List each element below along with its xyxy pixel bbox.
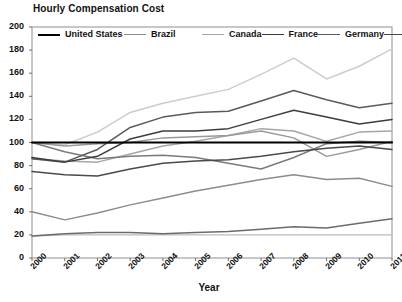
legend-line-swatch <box>38 34 60 36</box>
legend-label: Canada <box>229 30 262 39</box>
legend-label: Brazil <box>151 30 176 39</box>
y-tick-label: 20 <box>0 230 24 239</box>
legend-item-brazil[interactable]: Brazil <box>124 28 202 41</box>
legend-item-france[interactable]: France <box>262 28 319 41</box>
x-axis-title: Year <box>8 282 402 293</box>
y-tick-label: 0 <box>0 253 24 262</box>
chart-legend: United StatesBrazilCanadaFranceGermanyGr… <box>38 28 402 41</box>
legend-line-swatch <box>202 34 224 35</box>
legend-item-greece[interactable]: Greece <box>384 28 402 41</box>
legend-item-canada[interactable]: Canada <box>202 28 262 41</box>
legend-label: France <box>289 30 319 39</box>
y-tick-label: 100 <box>0 138 24 147</box>
legend-item-germany[interactable]: Germany <box>318 28 384 41</box>
chart-root: Hourly Compensation Cost 020406080100120… <box>0 0 402 302</box>
legend-line-swatch <box>318 34 340 35</box>
y-tick-label: 160 <box>0 68 24 77</box>
y-tick-label: 180 <box>0 45 24 54</box>
legend-label: Germany <box>345 30 384 39</box>
legend-label: United States <box>65 30 123 39</box>
y-tick-label: 140 <box>0 91 24 100</box>
y-tick-label: 200 <box>0 22 24 31</box>
legend-line-swatch <box>384 34 402 35</box>
legend-line-swatch <box>262 34 284 35</box>
legend-line-swatch <box>124 34 146 35</box>
y-tick-label: 60 <box>0 184 24 193</box>
y-tick-label: 80 <box>0 161 24 170</box>
y-tick-label: 120 <box>0 114 24 123</box>
legend-item-united-states[interactable]: United States <box>38 28 124 41</box>
y-tick-label: 40 <box>0 207 24 216</box>
